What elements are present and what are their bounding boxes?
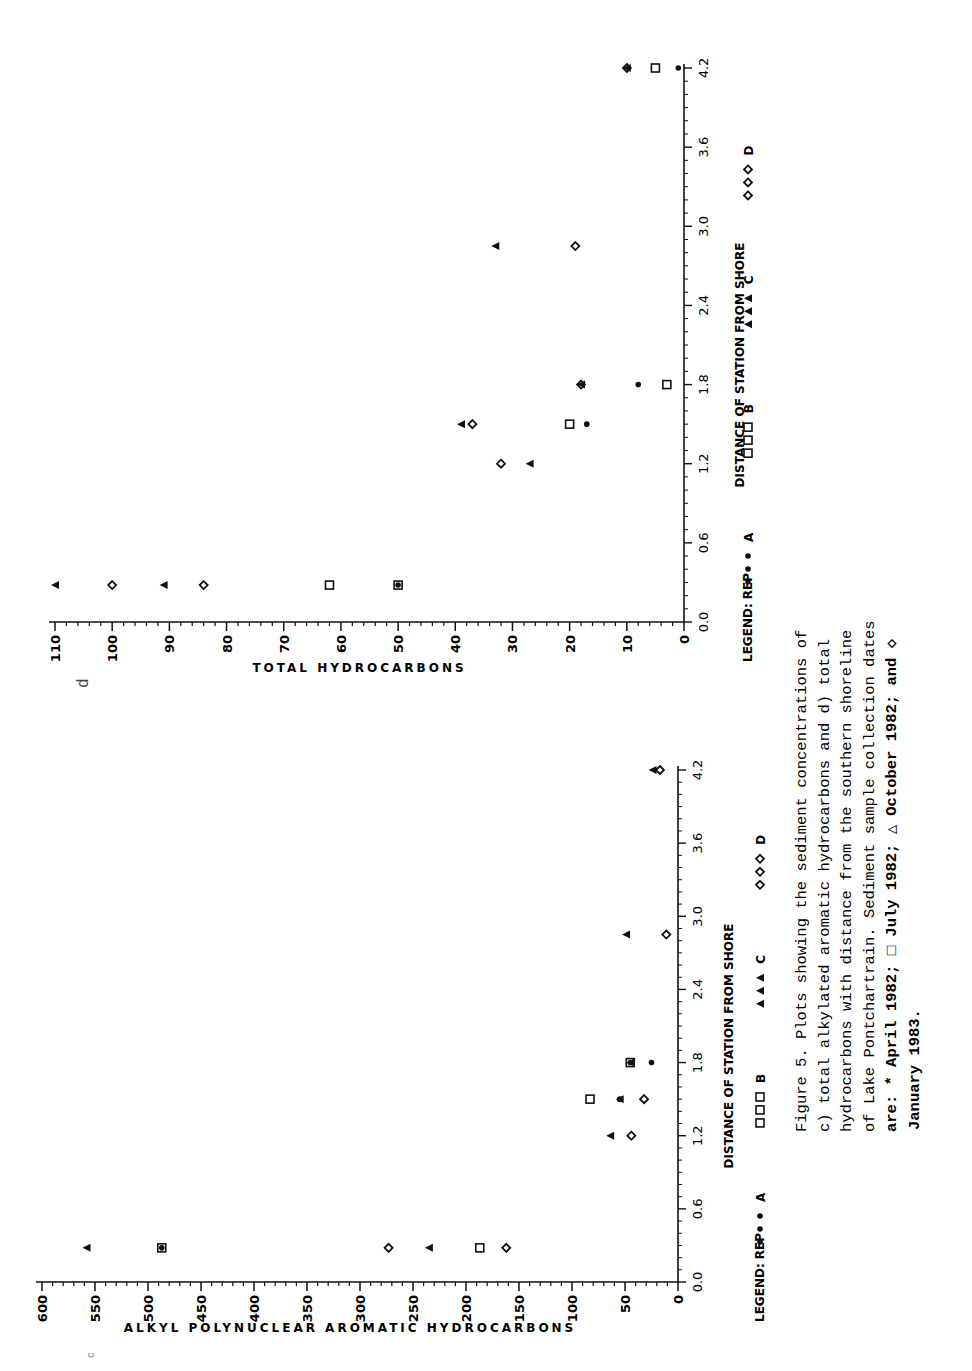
caption-line: hydrocarbons with distance from the sout… bbox=[838, 630, 856, 1132]
legend-item-label: D bbox=[742, 145, 756, 155]
star-marker-icon bbox=[745, 566, 751, 572]
caption-line: of Lake Pontchartrain. Sediment sample c… bbox=[861, 620, 879, 1132]
triangle-marker-icon bbox=[160, 581, 168, 589]
legend-title: LEGEND: REP bbox=[741, 573, 755, 662]
distance-tick-label: 2.4 bbox=[690, 979, 705, 1000]
legend-item-label: B bbox=[754, 1074, 768, 1083]
triangle-marker-icon bbox=[491, 242, 499, 250]
legend-item-label: C bbox=[742, 275, 756, 284]
star-marker-icon bbox=[745, 579, 751, 585]
legend-item-label: B bbox=[742, 404, 756, 413]
diamond-marker-icon bbox=[497, 460, 505, 468]
value-tick-label: 600 bbox=[35, 1295, 50, 1322]
value-tick-label: 450 bbox=[194, 1295, 209, 1322]
distance-tick-label: 0.0 bbox=[690, 1272, 705, 1293]
triangle-marker-icon bbox=[756, 1000, 764, 1008]
star-marker-icon bbox=[757, 1213, 763, 1219]
diamond-marker-icon bbox=[627, 1132, 635, 1140]
diamond-marker-icon bbox=[756, 855, 764, 863]
square-marker-icon bbox=[566, 420, 574, 428]
triangle-marker-icon bbox=[756, 987, 764, 995]
value-tick-label: 250 bbox=[406, 1295, 421, 1322]
value-tick-label: 0 bbox=[671, 1295, 686, 1304]
square-marker-icon bbox=[756, 1119, 764, 1127]
diamond-marker-icon bbox=[640, 1095, 648, 1103]
legend-item-label: D bbox=[754, 835, 768, 845]
diamond-marker-icon bbox=[744, 178, 752, 186]
caption-line: Figure 5. Plots showing the sediment con… bbox=[793, 630, 811, 1132]
value-tick-label: 20 bbox=[563, 635, 578, 653]
legend-item-label: A bbox=[742, 532, 756, 542]
value-tick-label: 10 bbox=[620, 635, 635, 653]
triangle-marker-icon bbox=[457, 420, 465, 428]
value-tick-label: 550 bbox=[88, 1295, 103, 1322]
star-marker-icon bbox=[159, 1245, 165, 1251]
distance-tick-label: 3.6 bbox=[696, 137, 711, 158]
triangle-marker-icon bbox=[83, 1244, 91, 1252]
distance-tick-label: 3.0 bbox=[690, 906, 705, 927]
value-tick-label: 150 bbox=[512, 1295, 527, 1322]
star-marker-icon bbox=[584, 421, 590, 427]
triangle-marker-icon bbox=[622, 931, 630, 939]
value-tick-label: 50 bbox=[618, 1295, 633, 1313]
distance-tick-label: 1.2 bbox=[690, 1125, 705, 1146]
diamond-marker-icon bbox=[200, 581, 208, 589]
caption-line: January 1983. bbox=[906, 1009, 924, 1130]
diamond-marker-icon bbox=[385, 1244, 393, 1252]
diamond-marker-icon bbox=[744, 191, 752, 199]
caption-line: are: * April 1982; □ July 1982; △ Octobe… bbox=[883, 638, 901, 1132]
legend-title: LEGEND: REP bbox=[753, 1233, 767, 1322]
triangle-marker-icon bbox=[51, 581, 59, 589]
triangle-marker-icon bbox=[626, 1059, 634, 1067]
diamond-marker-icon bbox=[662, 931, 670, 939]
distance-tick-label: 4.2 bbox=[690, 760, 705, 781]
value-tick-label: 70 bbox=[277, 635, 292, 653]
triangle-marker-icon bbox=[425, 1244, 433, 1252]
figure-caption: Figure 5. Plots showing the sediment con… bbox=[793, 620, 924, 1132]
square-marker-icon bbox=[756, 1106, 764, 1114]
chart-panel-d: 01020304050607080901001100.00.61.21.82.4… bbox=[48, 58, 756, 675]
value-tick-label: 400 bbox=[247, 1295, 262, 1322]
triangle-marker-icon bbox=[526, 460, 534, 468]
distance-tick-label: 1.8 bbox=[696, 374, 711, 395]
chart-legend: LEGEND: REPABCD bbox=[753, 835, 768, 1322]
legend-item-label: C bbox=[754, 955, 768, 964]
star-marker-icon bbox=[675, 65, 681, 71]
value-axis-title: TOTAL HYDROCARBONS bbox=[252, 661, 466, 675]
distance-tick-label: 4.2 bbox=[696, 58, 711, 79]
value-tick-label: 50 bbox=[391, 635, 406, 653]
value-tick-label: 200 bbox=[459, 1295, 474, 1322]
value-axis-title: ALKYL POLYNUCLEAR AROMATIC HYDROCARBONS bbox=[124, 1321, 577, 1335]
square-marker-icon bbox=[663, 381, 671, 389]
value-tick-label: 30 bbox=[505, 635, 520, 653]
diamond-marker-icon bbox=[571, 242, 579, 250]
diamond-marker-icon bbox=[468, 420, 476, 428]
diamond-marker-icon bbox=[756, 868, 764, 876]
distance-tick-label: 0.6 bbox=[690, 1199, 705, 1220]
value-tick-label: 500 bbox=[141, 1295, 156, 1322]
diamond-marker-icon bbox=[502, 1244, 510, 1252]
panel-label-d: d bbox=[75, 678, 93, 688]
square-marker-icon bbox=[586, 1095, 594, 1103]
distance-tick-label: 1.2 bbox=[696, 453, 711, 474]
diamond-marker-icon bbox=[108, 581, 116, 589]
distance-tick-label: 0.6 bbox=[696, 533, 711, 554]
distance-axis-title: DISTANCE OF STATION FROM SHORE bbox=[722, 924, 736, 1169]
value-tick-label: 60 bbox=[334, 635, 349, 653]
distance-tick-label: 3.6 bbox=[690, 833, 705, 854]
value-tick-label: 40 bbox=[448, 635, 463, 653]
square-marker-icon bbox=[756, 1093, 764, 1101]
star-marker-icon bbox=[395, 582, 401, 588]
diamond-marker-icon bbox=[656, 766, 664, 774]
caption-line: c) total alkylated aromatic hydrocarbons… bbox=[816, 639, 834, 1132]
diamond-marker-icon bbox=[744, 165, 752, 173]
distance-tick-label: 3.0 bbox=[696, 216, 711, 237]
distance-tick-label: 2.4 bbox=[696, 295, 711, 316]
value-tick-label: 100 bbox=[105, 635, 120, 662]
distance-tick-label: 0.0 bbox=[696, 612, 711, 633]
triangle-marker-icon bbox=[606, 1132, 614, 1140]
star-marker-icon bbox=[649, 1060, 655, 1066]
star-marker-icon bbox=[757, 1226, 763, 1232]
value-tick-label: 90 bbox=[162, 635, 177, 653]
triangle-marker-icon bbox=[616, 1095, 624, 1103]
